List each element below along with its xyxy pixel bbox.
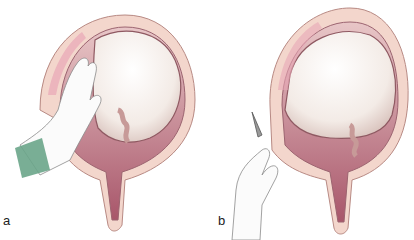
panel-b	[232, 8, 408, 240]
panel-label-a: a	[3, 213, 10, 228]
panel-a	[15, 15, 195, 231]
instrument-b	[252, 112, 262, 137]
illustration	[0, 0, 414, 240]
amniotic-sac-a	[93, 31, 181, 142]
panel-label-b: b	[218, 213, 225, 228]
hand-b	[232, 149, 278, 240]
